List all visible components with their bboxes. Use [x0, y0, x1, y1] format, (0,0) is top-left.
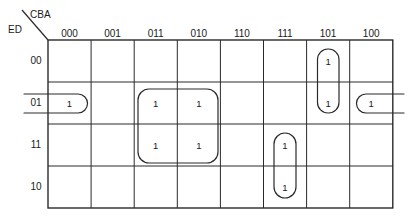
group-wrap-around-row-01	[24, 94, 404, 113]
row-header-11: 11	[31, 139, 42, 150]
column-headers: 000 001 011 010 110 111 101 100	[61, 28, 380, 39]
cell-row00-col101: 1	[325, 56, 330, 67]
column-header-110: 110	[234, 28, 250, 39]
column-header-111: 111	[277, 28, 293, 39]
column-variables-label: CBA	[30, 9, 51, 20]
group-block-outline	[138, 89, 218, 163]
karnaugh-map: CBA ED 000 001 011 010 110 111 101 100 0…	[0, 0, 408, 219]
cell-row01-col010: 1	[196, 98, 201, 109]
group-wrap-right-segment	[357, 94, 404, 113]
row-variables-label: ED	[8, 24, 22, 35]
group-block-011-010-rows-01-11	[138, 89, 218, 163]
row-header-00: 00	[30, 55, 42, 66]
grid-lines	[48, 40, 393, 208]
cell-row01-col101: 1	[325, 98, 330, 109]
column-header-001: 001	[104, 28, 121, 39]
cell-row01-col011: 1	[153, 98, 158, 109]
column-header-101: 101	[320, 28, 337, 39]
cell-row10-col111: 1	[282, 182, 287, 193]
cell-row01-col000: 1	[67, 98, 72, 109]
column-header-000: 000	[61, 28, 78, 39]
column-header-011: 011	[148, 28, 164, 39]
cell-row11-col111: 1	[282, 140, 287, 151]
cell-row11-col010: 1	[196, 140, 201, 151]
row-header-01: 01	[30, 97, 42, 108]
row-header-10: 10	[30, 181, 42, 192]
column-header-010: 010	[190, 28, 207, 39]
row-headers: 00 01 11 10	[30, 55, 42, 192]
cell-row11-col011: 1	[153, 140, 158, 151]
column-header-100: 100	[363, 28, 380, 39]
cell-row01-col100: 1	[369, 98, 374, 109]
karnaugh-map-canvas: CBA ED 000 001 011 010 110 111 101 100 0…	[0, 0, 408, 219]
corner-header: CBA ED	[8, 9, 51, 40]
